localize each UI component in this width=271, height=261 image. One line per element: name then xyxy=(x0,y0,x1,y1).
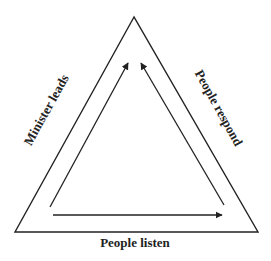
triangle-diagram: Minister leads People respond People lis… xyxy=(0,0,271,261)
label-people-respond: People respond xyxy=(192,67,247,149)
label-minister-leads: Minister leads xyxy=(20,72,71,148)
label-people-listen: People listen xyxy=(100,235,170,250)
